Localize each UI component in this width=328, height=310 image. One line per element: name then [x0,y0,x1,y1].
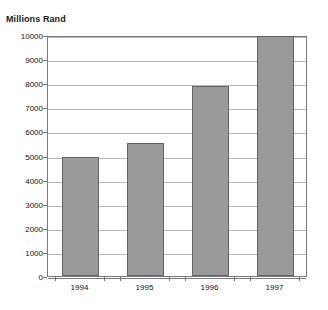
y-tick-label-7000: 7000 [25,104,43,113]
x-tick-mark-1-0 [120,277,121,281]
x-tick-mark-1-1 [169,277,170,281]
y-tick-label-9000: 9000 [25,56,43,65]
bar-1995[interactable] [127,143,164,276]
x-axis: 1994199519961997 [47,283,307,299]
x-tick-label-1996: 1996 [201,283,219,292]
chart-title: Millions Rand [6,14,66,24]
x-tick-mark-3-1 [299,277,300,281]
x-tick-mark-0-0 [55,277,56,281]
y-tick-label-10000: 10000 [21,32,43,41]
bar-1996[interactable] [192,86,229,276]
y-tick-label-1000: 1000 [25,248,43,257]
x-tick-label-1997: 1997 [266,283,284,292]
x-tick-mark-2-1 [234,277,235,281]
x-axis-tick-marks [47,277,307,282]
bar-chart: Millions Rand 01000200030004000500060007… [0,0,328,310]
bars-layer [48,37,306,276]
bar-1994[interactable] [62,157,99,276]
y-axis: 0100020003000400050006000700080009000100… [0,36,43,277]
x-tick-mark-0-1 [104,277,105,281]
x-tick-label-1995: 1995 [136,283,154,292]
y-tick-label-2000: 2000 [25,224,43,233]
y-tick-label-3000: 3000 [25,200,43,209]
y-tick-label-6000: 6000 [25,128,43,137]
y-tick-label-5000: 5000 [25,152,43,161]
bar-1997[interactable] [257,36,294,276]
x-tick-mark-3-0 [250,277,251,281]
x-tick-mark-2-0 [185,277,186,281]
y-tick-label-8000: 8000 [25,80,43,89]
x-tick-label-1994: 1994 [71,283,89,292]
y-tick-label-4000: 4000 [25,176,43,185]
plot-area [47,36,307,277]
